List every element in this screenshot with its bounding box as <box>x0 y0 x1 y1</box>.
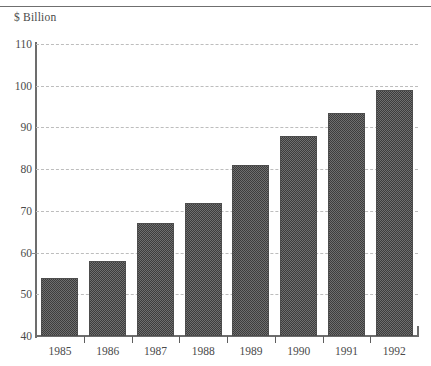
plot-area <box>36 44 418 336</box>
x-tick-1986 <box>132 336 133 343</box>
bar-1986 <box>89 261 126 336</box>
top-divider-rule <box>0 6 431 7</box>
bar-1991 <box>328 113 365 336</box>
x-tick-1989 <box>275 336 276 343</box>
bar-1985 <box>41 278 78 336</box>
bar-1987 <box>137 223 174 336</box>
x-tick-1990 <box>323 336 324 343</box>
y-tick-label-80: 80 <box>2 163 32 175</box>
x-tick-label-1991: 1991 <box>335 345 358 357</box>
x-tick-1991 <box>370 336 371 343</box>
y-tick-label-110: 110 <box>2 38 32 50</box>
x-tick-label-1985: 1985 <box>48 345 71 357</box>
x-tick-label-1992: 1992 <box>383 345 406 357</box>
gridline-110 <box>36 44 418 45</box>
y-tick-mark-60 <box>32 253 37 254</box>
x-tick-1987 <box>179 336 180 343</box>
bar-1992 <box>376 90 413 336</box>
bar-1990 <box>280 136 317 336</box>
chart-title: $ Billion <box>14 11 56 23</box>
y-tick-label-70: 70 <box>2 205 32 217</box>
y-tick-label-100: 100 <box>2 80 32 92</box>
x-tick-label-1987: 1987 <box>144 345 167 357</box>
y-axis-tick-labels: 405060708090100110 <box>0 44 32 336</box>
y-tick-label-60: 60 <box>2 247 32 259</box>
gridline-100 <box>36 86 418 87</box>
x-tick-label-1990: 1990 <box>287 345 310 357</box>
x-tick-1985 <box>84 336 85 343</box>
y-tick-label-90: 90 <box>2 121 32 133</box>
x-tick-label-1989: 1989 <box>239 345 262 357</box>
chart-figure: $ Billion 405060708090100110 19851986198… <box>0 0 431 366</box>
x-tick-1988 <box>227 336 228 343</box>
y-tick-label-40: 40 <box>2 330 32 342</box>
bar-1989 <box>232 165 269 336</box>
x-tick-label-1986: 1986 <box>96 345 119 357</box>
bar-1988 <box>185 203 222 336</box>
x-tick-label-1988: 1988 <box>192 345 215 357</box>
y-tick-label-50: 50 <box>2 288 32 300</box>
